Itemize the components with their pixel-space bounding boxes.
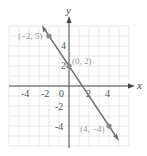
x-axis-label: x bbox=[136, 79, 142, 91]
data-point bbox=[106, 123, 111, 128]
x-tick-label: -2 bbox=[41, 88, 49, 99]
y-tick-label: 4 bbox=[61, 40, 66, 51]
y-tick-label: 2 bbox=[61, 60, 66, 71]
x-tick-label: 4 bbox=[105, 88, 110, 99]
data-point bbox=[66, 63, 71, 68]
point-label: (0, 2) bbox=[72, 56, 92, 66]
line-arrow-down-icon bbox=[113, 134, 119, 141]
y-tick-label: -2 bbox=[55, 101, 63, 112]
point-label: (−2, 5) bbox=[18, 31, 43, 41]
x-tick-label: 0 bbox=[59, 88, 64, 99]
y-axis-label: y bbox=[65, 4, 71, 16]
y-tick-label: -4 bbox=[55, 121, 63, 132]
point-label: (4, −4) bbox=[80, 124, 105, 134]
x-tick-label: -4 bbox=[21, 88, 29, 99]
coordinate-plane: x y -4 -2 0 2 4 4 2 -2 -4 (−2, 5) (0, 2)… bbox=[0, 0, 147, 156]
data-point bbox=[46, 33, 51, 38]
x-axis-arrow-icon bbox=[128, 84, 135, 89]
y-axis-arrow-icon bbox=[67, 16, 72, 23]
